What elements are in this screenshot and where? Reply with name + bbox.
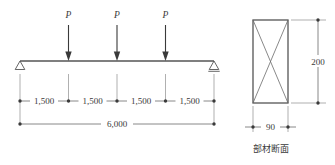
section-height-dimension: 200	[291, 18, 330, 104]
point-load-2: P	[113, 10, 120, 61]
segment-label-4: 1,500	[180, 96, 201, 106]
structural-beam-diagram: P P P	[0, 0, 335, 165]
section-width-dimension: 90	[245, 106, 296, 132]
pin-support-left	[15, 61, 25, 70]
segment-label-1: 1,500	[34, 96, 55, 106]
point-load-2-label: P	[113, 10, 120, 20]
diagram-canvas: P P P	[0, 0, 335, 165]
segment-label-2: 1,500	[83, 96, 104, 106]
cross-section-group: 200 90 部材断面	[245, 18, 330, 154]
beam-elevation-group: P P P	[15, 10, 220, 129]
section-width-label: 90	[266, 122, 276, 132]
roller-support-right	[208, 61, 219, 71]
point-load-3-label: P	[162, 10, 169, 20]
point-load-1-label: P	[65, 10, 72, 20]
point-load-1: P	[65, 10, 72, 61]
section-cross-hatch	[253, 20, 288, 103]
span-label: 6,000	[107, 119, 128, 129]
span-dimension-line: 6,000	[18, 118, 215, 129]
segment-label-3: 1,500	[131, 96, 152, 106]
section-height-label: 200	[311, 57, 325, 67]
point-load-3: P	[162, 10, 169, 61]
section-caption: 部材断面	[253, 143, 289, 154]
